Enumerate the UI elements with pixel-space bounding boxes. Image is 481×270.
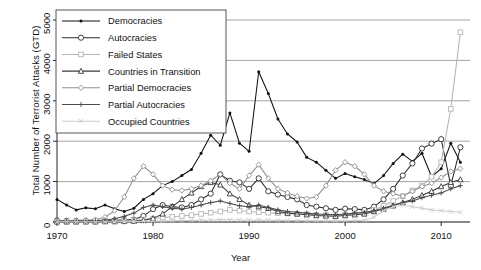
svg-text:1980: 1980: [142, 230, 163, 241]
series-countries-in-transition: [54, 177, 463, 224]
svg-text:Failed States: Failed States: [108, 50, 163, 60]
svg-text:Democracies: Democracies: [108, 16, 163, 26]
svg-text:1000: 1000: [41, 174, 52, 195]
line-chart-canvas: 010002000300040005000 197019801990200020…: [0, 0, 481, 270]
svg-text:2000: 2000: [41, 134, 52, 155]
chart-legend: DemocraciesAutocraciesFailed StatesCount…: [56, 10, 226, 133]
svg-text:Partial Democracies: Partial Democracies: [108, 83, 192, 93]
svg-text:2010: 2010: [431, 230, 452, 241]
svg-text:Partial Autocracies: Partial Autocracies: [108, 100, 185, 110]
svg-text:Countries in Transition: Countries in Transition: [108, 67, 201, 77]
svg-text:1970: 1970: [46, 230, 67, 241]
x-axis-ticks: 19701980199020002010: [46, 222, 451, 241]
svg-text:1990: 1990: [239, 230, 260, 241]
svg-text:5000: 5000: [41, 13, 52, 34]
svg-text:3000: 3000: [41, 94, 52, 115]
chart-figure: Total Number of Terrorist Attacks (GTD) …: [0, 0, 481, 270]
svg-text:2000: 2000: [335, 230, 356, 241]
svg-text:4000: 4000: [41, 53, 52, 74]
svg-text:0: 0: [41, 223, 52, 228]
svg-text:Autocracies: Autocracies: [108, 33, 157, 43]
y-axis-ticks: 010002000300040005000: [41, 13, 57, 228]
svg-text:Occupied Countries: Occupied Countries: [108, 117, 190, 127]
